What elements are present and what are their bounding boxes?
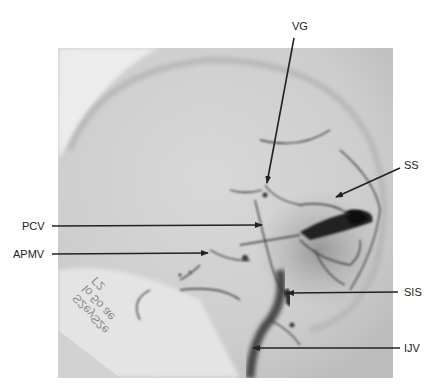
- arrow-ss: [336, 168, 400, 197]
- arrow-pcv: [52, 225, 262, 226]
- label-ss: SS: [404, 159, 419, 171]
- label-pcv: PCV: [22, 220, 45, 232]
- label-vg: VG: [292, 20, 308, 32]
- label-apmv: APMV: [13, 248, 44, 260]
- label-ijv: IJV: [404, 342, 420, 354]
- label-sis: SIS: [404, 286, 422, 298]
- arrow-sis: [287, 292, 398, 293]
- arrow-apmv: [52, 253, 208, 254]
- angiogram-figure: S2eyS2e lo 5o ae Γ2 VG SS PCV APMV SIS I…: [0, 0, 438, 391]
- arrow-vg: [267, 38, 294, 183]
- annotation-arrows: [0, 0, 438, 391]
